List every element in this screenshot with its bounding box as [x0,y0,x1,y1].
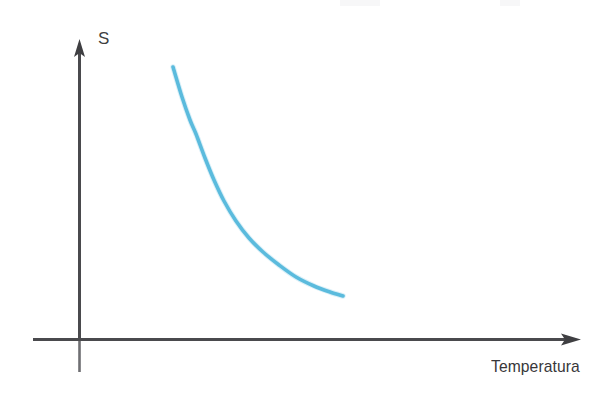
plot-canvas [0,0,611,399]
x-axis-label: Temperatura [491,358,580,375]
y-axis-label: S [98,30,110,47]
data-curve-s-of-t [173,67,343,296]
entropy-temperature-figure: S Temperatura [0,0,611,399]
data-curve-halo [173,67,343,296]
